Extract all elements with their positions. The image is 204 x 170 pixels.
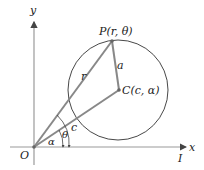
- angle-theta-label: θ: [62, 129, 68, 140]
- origin-label: O: [20, 149, 29, 162]
- point-o: [32, 145, 36, 149]
- polar-axis-label: I: [177, 152, 183, 165]
- x-axis-label: x: [189, 141, 196, 154]
- polar-circle-diagram: y x O I P(r, θ) C(c, α) r a c θ α: [0, 0, 204, 170]
- segment-a-label: a: [117, 59, 124, 72]
- y-axis-label: y: [29, 4, 37, 17]
- point-p-label: P(r, θ): [98, 25, 133, 38]
- segment-c-label: c: [71, 121, 77, 134]
- point-p: [110, 39, 114, 43]
- point-c-label: C(c, α): [122, 84, 160, 97]
- point-c: [117, 88, 121, 92]
- angle-alpha-label: α: [48, 136, 55, 147]
- segment-r-label: r: [81, 70, 87, 83]
